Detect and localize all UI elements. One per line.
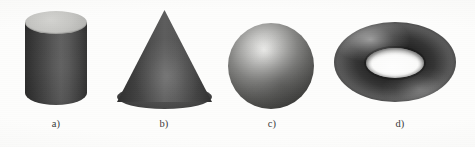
caption-torus: d): [330, 118, 470, 129]
cylinder-shape: [25, 11, 87, 108]
shape-cell-sphere: c): [222, 0, 322, 147]
cylinder-body-shading: [25, 22, 87, 105]
cone-shape: [117, 10, 212, 109]
cone-specular-glow: [117, 10, 212, 102]
torus-shape: [334, 22, 456, 102]
shape-cell-torus: d): [330, 0, 470, 147]
cylinder-top-face: [25, 11, 87, 34]
cylinder-body: [25, 22, 87, 105]
sphere-shape: [228, 23, 314, 109]
torus-hole: [366, 48, 424, 78]
shape-cell-cylinder: a): [8, 0, 104, 147]
caption-sphere: c): [222, 118, 322, 129]
sphere-terminator-shading: [228, 23, 314, 109]
geometric-primitives-figure: a) b) c): [0, 0, 475, 147]
caption-cylinder: a): [8, 118, 104, 129]
shape-cell-cone: b): [112, 0, 216, 147]
caption-cone: b): [112, 118, 216, 129]
